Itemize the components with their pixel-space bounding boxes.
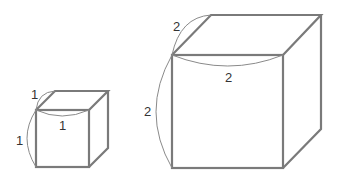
small-cube-height-arc: [27, 110, 36, 167]
large-cube-side-face: [283, 15, 321, 168]
large-cube-height-label: 2: [144, 104, 151, 119]
large-cube-depth-label: 2: [173, 19, 180, 34]
large-cube-top-face: [172, 15, 321, 55]
cubes-diagram: 1 1 1 2 2 2: [0, 0, 342, 184]
large-cube-width-label: 2: [225, 70, 232, 85]
large-cube-height-arc: [156, 55, 172, 168]
small-cube-side-face: [89, 91, 108, 167]
small-cube-depth-label: 1: [31, 87, 38, 102]
small-cube-top-face: [36, 91, 108, 110]
large-cube: 2 2 2: [144, 15, 321, 168]
small-cube-width-label: 1: [59, 118, 66, 133]
small-cube-height-label: 1: [16, 133, 23, 148]
large-cube-width-arc: [172, 55, 283, 66]
small-cube: 1 1 1: [16, 87, 108, 167]
